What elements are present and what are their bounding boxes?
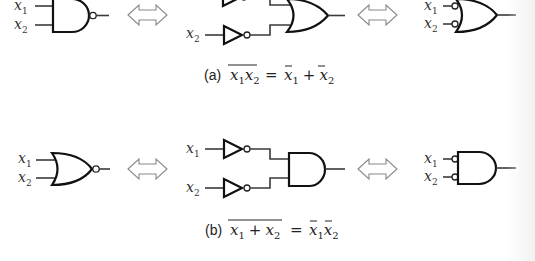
equation-rhs: x1+x2	[284, 66, 334, 86]
svg-text:(b): (b)	[205, 222, 222, 238]
caption-b: (b) x1+x2 = x1x2	[205, 220, 339, 241]
inverter-bubble-icon	[244, 146, 250, 152]
inverter-icon	[223, 0, 241, 6]
input-label-x2: x2	[18, 169, 32, 188]
equivalence-arrow-icon	[358, 159, 397, 179]
input-label-x2: x2	[424, 168, 438, 187]
equivalence-arrow-icon	[358, 5, 397, 25]
input-label-x2: x2	[186, 25, 200, 44]
part-b: x1 x2 x1 x2 x1	[18, 140, 516, 241]
or-gate-bubbled-inputs: x1 x2	[424, 0, 516, 34]
and-gate-icon	[289, 153, 325, 186]
output-bubble-icon	[93, 166, 99, 172]
svg-text:=: =	[290, 221, 303, 239]
inverter-icon	[224, 26, 242, 44]
input-bubble-icon	[452, 21, 458, 27]
input-label-x1: x1	[424, 0, 438, 16]
or-gate-icon	[287, 0, 328, 32]
input-label-x2: x2	[424, 15, 438, 34]
inverters-or-circuit: x2	[186, 0, 345, 44]
equivalence-arrow-icon	[128, 5, 167, 25]
caption-a: (a) x1x2 = x1+x2	[204, 65, 334, 86]
and-gate-bubbled-inputs: x1 x2	[424, 150, 516, 187]
part-a: x1 x2 x2	[14, 0, 516, 86]
inverters-and-circuit: x1 x2	[186, 140, 345, 198]
inverter-icon	[224, 140, 242, 158]
inverter-icon	[224, 179, 242, 197]
input-label-x1: x1	[424, 150, 438, 169]
input-label-x1: x1	[18, 150, 32, 169]
svg-text:(a): (a)	[204, 67, 221, 83]
nand-gate-left: x1 x2	[14, 0, 109, 35]
equation-rhs: x1x2	[309, 221, 339, 241]
input-label-x2: x2	[186, 179, 200, 198]
equation-lhs: x1x2	[230, 66, 260, 86]
page-edge-shadow	[507, 0, 535, 261]
equation-lhs: x1+x2	[230, 221, 280, 241]
equivalence-arrow-icon	[128, 159, 167, 179]
svg-text:=: =	[265, 66, 278, 84]
or-gate-icon	[456, 0, 497, 32]
input-label-x1: x1	[186, 140, 200, 159]
inverter-bubble-icon	[244, 185, 250, 191]
output-bubble-icon	[90, 12, 96, 18]
inverter-bubble-icon	[244, 32, 250, 38]
input-bubble-icon	[452, 3, 458, 9]
or-body-icon	[52, 153, 92, 185]
and-body-icon	[53, 0, 89, 32]
nor-gate-left: x1 x2	[18, 150, 110, 188]
de-morgan-diagram: x1 x2 x2	[0, 0, 535, 261]
input-label-x2: x2	[14, 16, 28, 35]
input-label-x1: x1	[14, 0, 28, 16]
and-gate-icon	[458, 152, 496, 184]
